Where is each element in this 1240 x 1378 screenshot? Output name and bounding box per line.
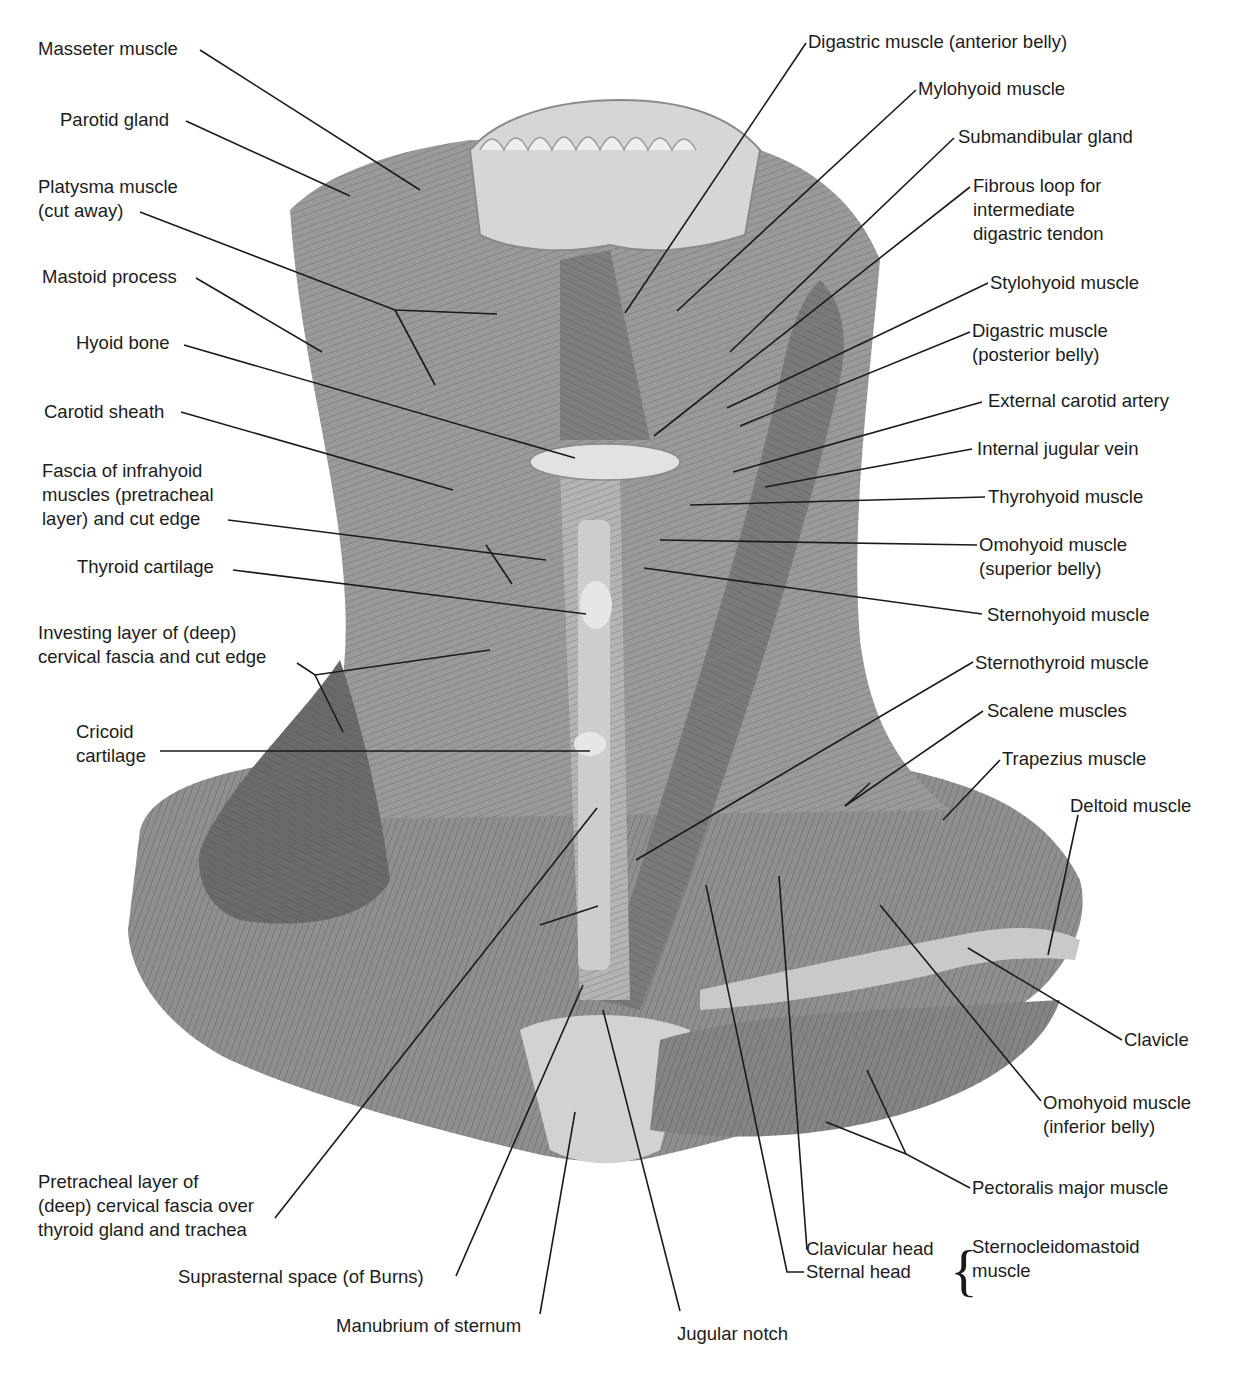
label-sternothyroid: Sternothyroid muscle <box>975 651 1149 675</box>
label-parotid-gland: Parotid gland <box>60 108 169 132</box>
label-thyroid-cartilage: Thyroid cartilage <box>77 555 214 579</box>
cricoid-shape <box>574 732 606 756</box>
teeth <box>480 137 696 150</box>
label-mastoid-process: Mastoid process <box>42 265 177 289</box>
label-external-carotid: External carotid artery <box>988 389 1169 413</box>
label-thyrohyoid: Thyrohyoid muscle <box>988 485 1143 509</box>
label-pectoralis-major: Pectoralis major muscle <box>972 1176 1168 1200</box>
anatomy-figure: { Masseter muscle Parotid gland Platysma… <box>0 0 1240 1378</box>
label-scalene: Scalene muscles <box>987 699 1127 723</box>
label-clavicular-head: Clavicular head <box>806 1237 934 1261</box>
label-cricoid-cartilage: Cricoid cartilage <box>76 720 146 768</box>
label-stylohyoid: Stylohyoid muscle <box>990 271 1139 295</box>
label-pretracheal-layer: Pretracheal layer of (deep) cervical fas… <box>38 1170 254 1242</box>
label-digastric-posterior: Digastric muscle (posterior belly) <box>972 319 1108 367</box>
hyoid-shape <box>530 444 680 480</box>
label-digastric-anterior: Digastric muscle (anterior belly) <box>808 30 1067 54</box>
label-internal-jugular: Internal jugular vein <box>977 437 1138 461</box>
label-manubrium: Manubrium of sternum <box>336 1314 521 1338</box>
label-fascia-infrahyoid: Fascia of infrahyoid muscles (pretrachea… <box>42 459 214 531</box>
label-hyoid-bone: Hyoid bone <box>76 331 170 355</box>
label-submandibular-gland: Submandibular gland <box>958 125 1133 149</box>
label-sternal-head: Sternal head <box>806 1260 911 1284</box>
label-sternohyoid: Sternohyoid muscle <box>987 603 1149 627</box>
label-sternocleidomastoid: Sternocleidomastoid muscle <box>972 1235 1140 1283</box>
thyroid-cartilage-shape <box>580 581 612 629</box>
label-suprasternal-space: Suprasternal space (of Burns) <box>178 1265 424 1289</box>
label-omohyoid-superior: Omohyoid muscle (superior belly) <box>979 533 1127 581</box>
label-carotid-sheath: Carotid sheath <box>44 400 164 424</box>
label-fibrous-loop: Fibrous loop for intermediate digastric … <box>973 174 1104 246</box>
label-platysma-muscle: Platysma muscle (cut away) <box>38 175 178 223</box>
label-trapezius: Trapezius muscle <box>1002 747 1146 771</box>
label-masseter-muscle: Masseter muscle <box>38 37 178 61</box>
label-omohyoid-inferior: Omohyoid muscle (inferior belly) <box>1043 1091 1191 1139</box>
label-mylohyoid: Mylohyoid muscle <box>918 77 1065 101</box>
label-investing-layer: Investing layer of (deep) cervical fasci… <box>38 621 266 669</box>
label-deltoid: Deltoid muscle <box>1070 794 1191 818</box>
label-clavicle: Clavicle <box>1124 1028 1189 1052</box>
label-jugular-notch: Jugular notch <box>677 1322 788 1346</box>
